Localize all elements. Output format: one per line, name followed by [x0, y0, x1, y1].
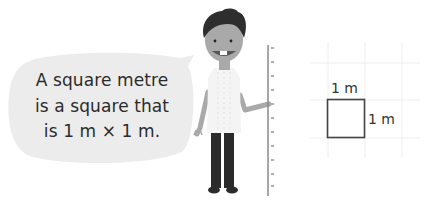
square-metre-diagram [0, 0, 431, 216]
top-dimension-label: 1 m [331, 80, 358, 96]
side-dimension-label: 1 m [368, 111, 395, 127]
unit-square [328, 100, 365, 138]
